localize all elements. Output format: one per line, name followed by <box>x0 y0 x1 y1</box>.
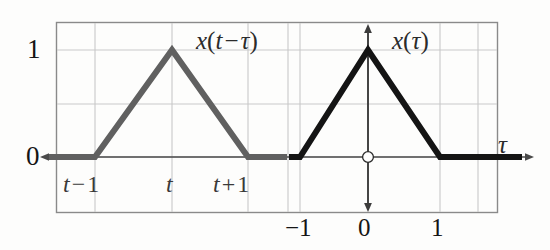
x-tick-label-t-minus-1: t−1 <box>63 172 99 196</box>
x-tick-label-minus-1: −1 <box>285 215 312 240</box>
y-tick-label-1: 1 <box>27 36 41 63</box>
x-tick-label-t: t <box>166 172 173 196</box>
signal-plot-figure: 1 0 x(t−τ) x(τ) τ t−1 t t+1 −1 0 1 <box>0 0 550 250</box>
x-tick-tp1-num: 1 <box>237 171 249 197</box>
x-tick-label-t-plus-1: t+1 <box>213 172 249 196</box>
annotation-shifted-close: ) <box>249 27 257 54</box>
x-tick-tp1-var: t <box>213 171 220 197</box>
annotation-original-fn: x <box>392 27 403 54</box>
annotation-shifted-fn: x <box>196 27 207 54</box>
x-tick-tm1-num: 1 <box>87 171 99 197</box>
tau-axis-label: τ <box>498 132 507 157</box>
annotation-original-close: ) <box>420 27 428 54</box>
annotation-shifted-op: − <box>222 27 240 54</box>
x-tick-tm1-op: − <box>70 171 88 197</box>
x-tick-tm1-var: t <box>63 171 70 197</box>
annotation-original-signal: x(τ) <box>392 28 429 53</box>
x-tick-label-one: 1 <box>431 215 444 240</box>
x-tick-tp1-op: + <box>220 171 238 197</box>
x-tick-label-zero: 0 <box>358 215 371 240</box>
horizontal-axis-arrow-right <box>525 153 534 161</box>
origin-marker <box>363 152 374 163</box>
annotation-shifted-signal: x(t−τ) <box>196 28 258 53</box>
plot-canvas <box>0 0 550 250</box>
horizontal-axis-arrow-left <box>40 153 49 161</box>
y-tick-label-0: 0 <box>26 143 40 170</box>
